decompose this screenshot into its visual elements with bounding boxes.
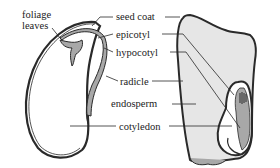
label-hypocotyl: hypocotyl [116,47,158,58]
label-radicle: radicle [120,76,149,87]
label-cotyledon: cotyledon [119,121,160,132]
corn-seed [177,15,256,165]
label-epicotyl: epicotyl [116,29,150,40]
label-foliage-leaves-line1: foliage [22,9,51,20]
bean-seed [26,22,107,158]
label-foliage-leaves-line2: leaves [22,20,48,31]
label-seed-coat: seed coat [116,11,155,22]
label-endosperm: endosperm [111,98,157,109]
seed-diagram: foliage leaves seed coat epicotyl hypoco… [0,0,280,168]
